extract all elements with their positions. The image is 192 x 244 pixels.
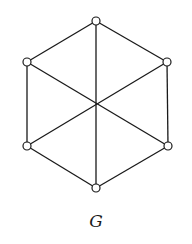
vertex-upper-right bbox=[163, 58, 171, 66]
vertex-upper-left bbox=[23, 58, 31, 66]
edge-v2-v3 bbox=[167, 62, 168, 146]
edge-v3-v4 bbox=[96, 146, 168, 188]
edge-v1-v2 bbox=[96, 21, 167, 62]
graph-label: G bbox=[0, 211, 192, 231]
edges-layer bbox=[27, 21, 168, 188]
edge-v4-v5 bbox=[27, 146, 96, 188]
vertex-lower-left bbox=[23, 142, 31, 150]
vertex-bottom bbox=[92, 184, 100, 192]
edge-v6-v1 bbox=[27, 21, 96, 62]
graph-diagram bbox=[0, 0, 192, 244]
vertex-lower-right bbox=[164, 142, 172, 150]
vertex-top bbox=[92, 17, 100, 25]
